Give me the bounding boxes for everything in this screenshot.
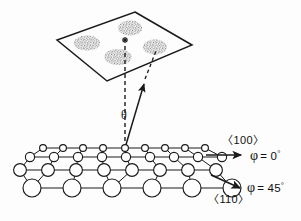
scattering-geometry-diagram: θ (0, 0, 301, 221)
lattice-atom (193, 152, 202, 161)
lattice-atom (100, 145, 107, 152)
lattice-atom (182, 145, 189, 152)
lattice-atom (23, 179, 41, 197)
lattice-atom (60, 145, 67, 152)
lattice-atom (80, 145, 87, 152)
figure-root: θ (0, 0, 301, 221)
lattice-atom (42, 164, 55, 177)
lattice-atom (126, 164, 139, 177)
phi-value-1: = 45 (257, 182, 281, 194)
phi-value-0: = 0 (260, 150, 277, 162)
direction-110-index-label: 〈110〉 (208, 193, 250, 205)
lattice-atom (162, 145, 169, 152)
diffraction-spot-top-overlay (118, 21, 142, 36)
lattice-atom (217, 152, 226, 161)
lattice-atom (63, 179, 81, 197)
direction-100-phi-label: φ= 0° (250, 148, 281, 163)
lattice-atom (40, 145, 47, 152)
lattice-atom (103, 179, 121, 197)
lattice-atom-scattering-origin (122, 145, 129, 152)
lattice-atom (169, 152, 178, 161)
theta-angle-label: θ (121, 108, 127, 122)
direction-110-group: φ= 45° 〈110〉 (208, 175, 284, 205)
direction-100-index-label: 〈100〉 (222, 134, 264, 146)
lattice-atom (49, 152, 58, 161)
phi-symbol-0: φ (250, 148, 258, 163)
lattice-atom (121, 152, 130, 161)
diffraction-spot-bottom-overlay (105, 49, 132, 65)
degree-symbol-1: ° (281, 181, 284, 190)
diffraction-spot-left-overlay (74, 36, 100, 51)
lattice-atom (183, 179, 201, 197)
lattice-atom (143, 179, 161, 197)
lattice-atom (182, 164, 195, 177)
direction-110-phi-label: φ= 45° (247, 180, 284, 195)
lattice-atom (14, 164, 27, 177)
lattice-atom (154, 164, 167, 177)
lattice-row-0 (40, 145, 209, 152)
scattered-beam-solid-arrow (125, 84, 144, 148)
degree-symbol-0: ° (277, 149, 280, 158)
lattice-atom (73, 152, 82, 161)
lattice-atom (97, 152, 106, 161)
crystal-lattice-group (14, 145, 241, 197)
lattice-atom (145, 152, 154, 161)
lattice-atom (70, 164, 83, 177)
lattice-row-1 (25, 152, 226, 161)
lattice-atom (25, 152, 34, 161)
lattice-atom (142, 145, 149, 152)
lattice-atom (202, 145, 209, 152)
specular-asterisk-icon (122, 37, 128, 43)
lattice-atom (98, 164, 111, 177)
